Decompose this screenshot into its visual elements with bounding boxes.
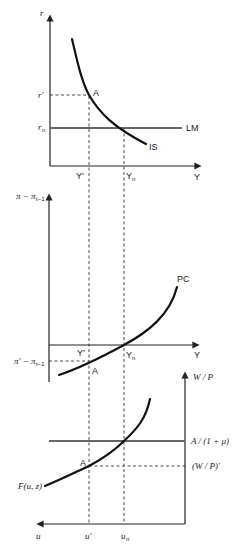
u-natural-tick-sub: n xyxy=(126,536,129,542)
u-prime-tick-label: u' xyxy=(85,531,93,541)
price-setting-label: A / (1 + μ) xyxy=(190,436,229,446)
panel-is-lm: r Y LM IS r' r n A Y' Y n xyxy=(38,8,200,182)
r-natural-sub: n xyxy=(42,127,45,133)
y-prime-tick-label-2: Y' xyxy=(77,348,85,358)
phillips-curve xyxy=(59,287,177,375)
lm-label: LM xyxy=(186,123,199,133)
r-axis-label: r xyxy=(40,8,44,18)
real-wage-axis-label: W / P xyxy=(193,372,213,382)
inflation-axis-sub: t−1 xyxy=(36,196,45,202)
y-natural-tick-sub: n xyxy=(132,176,135,182)
panel-labor-market: W / P u A / (1 + μ) (W / P)' F(u, z) A u… xyxy=(17,372,229,542)
inflation-prime-label: π' − π xyxy=(14,356,36,366)
y-prime-tick-label: Y' xyxy=(76,171,84,181)
point-a-label: A xyxy=(93,88,99,98)
y-axis-label: Y xyxy=(194,172,200,182)
inflation-prime-sub: t−1 xyxy=(36,361,45,367)
is-label: IS xyxy=(149,142,158,152)
inflation-axis-label: π − π xyxy=(16,191,36,201)
point-a-label-3: A xyxy=(80,458,86,468)
output-axis-label: Y xyxy=(194,350,200,360)
pc-label: PC xyxy=(177,274,190,284)
panel-phillips-curve: π − π t−1 Y PC π' − π t−1 Y' Y n A xyxy=(14,191,200,382)
wage-setting-curve xyxy=(45,399,150,486)
point-a-label-2: A xyxy=(92,366,98,376)
unemployment-axis-label: u xyxy=(36,531,41,541)
is-lm-pc-labor-diagram: r Y LM IS r' r n A Y' Y n π − π t−1 Y PC… xyxy=(0,0,239,553)
r-prime-label: r' xyxy=(38,90,45,100)
real-wage-prime-label: (W / P)' xyxy=(192,461,221,471)
y-natural-tick-sub-2: n xyxy=(132,355,135,361)
wage-setting-label: F(u, z) xyxy=(17,481,42,491)
